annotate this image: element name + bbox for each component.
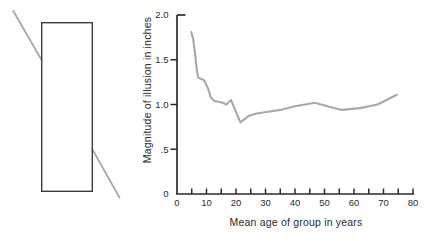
y-tick-label: .5	[161, 144, 169, 155]
y-tick-label: 1.5	[155, 54, 168, 65]
poggendorff-figure	[13, 11, 119, 198]
illusion-magnitude-curve	[191, 32, 397, 122]
x-tick-label: 0	[174, 197, 179, 208]
transversal-upper-segment	[13, 11, 41, 60]
x-tick-label: 40	[290, 197, 301, 208]
y-tick-label: 0	[163, 188, 168, 199]
y-tick-label: 1.0	[155, 99, 168, 110]
x-tick-label: 50	[319, 197, 330, 208]
x-tick-label: 20	[231, 197, 242, 208]
figure-canvas: 010203040506070800.51.01.52.0 Magnitude …	[0, 0, 427, 241]
magnitude-age-chart: 010203040506070800.51.01.52.0 Magnitude …	[141, 9, 418, 228]
y-axis-title: Magnitude of illusion in inches	[141, 17, 153, 163]
x-tick-label: 30	[260, 197, 271, 208]
x-tick-label: 10	[201, 197, 212, 208]
x-tick-label: 60	[349, 197, 360, 208]
occluding-rectangle	[42, 23, 93, 192]
tick-marks	[171, 60, 414, 194]
transversal-lower-segment	[92, 149, 119, 197]
x-tick-label: 80	[408, 197, 419, 208]
y-tick-label: 2.0	[155, 9, 168, 20]
figure-graphic: 010203040506070800.51.01.52.0 Magnitude …	[0, 0, 427, 241]
x-tick-label: 70	[378, 197, 389, 208]
x-axis-title: Mean age of group in years	[229, 216, 362, 228]
